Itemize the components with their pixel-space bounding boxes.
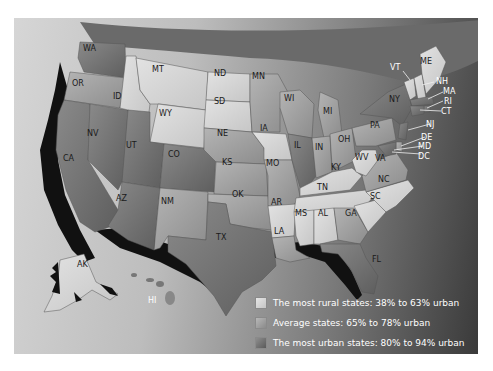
label-MA: MA xyxy=(443,87,456,96)
label-NE: NE xyxy=(217,129,228,138)
label-IN: IN xyxy=(315,143,323,152)
label-WI: WI xyxy=(284,94,294,103)
label-LA: LA xyxy=(274,227,285,236)
state-OH[interactable] xyxy=(330,128,356,168)
label-UT: UT xyxy=(126,141,137,150)
map-legend: The most rural states: 38% to 63% urban … xyxy=(255,293,485,353)
label-MO: MO xyxy=(266,159,279,168)
label-ME: ME xyxy=(420,57,432,66)
label-MT: MT xyxy=(152,65,164,74)
label-WY: WY xyxy=(159,109,172,118)
label-NV: NV xyxy=(87,129,99,138)
label-SC: SC xyxy=(370,192,381,201)
legend-label-urban: The most urban states: 80% to 94% urban xyxy=(273,338,465,348)
label-NM: NM xyxy=(161,197,174,206)
state-CT[interactable] xyxy=(410,106,424,116)
label-NH: NH xyxy=(436,77,448,86)
label-ID: ID xyxy=(113,92,122,101)
legend-swatch-rural xyxy=(255,297,267,309)
label-WV: WV xyxy=(355,153,369,162)
label-OK: OK xyxy=(232,190,244,199)
label-TN: TN xyxy=(316,183,328,192)
label-IA: IA xyxy=(260,124,268,133)
label-NY: NY xyxy=(389,95,400,104)
legend-item-average: Average states: 65% to 78% urban xyxy=(255,313,485,333)
label-DE: DE xyxy=(421,133,432,142)
state-NJ[interactable] xyxy=(398,122,408,140)
label-FL: FL xyxy=(372,255,382,264)
state-DE[interactable] xyxy=(396,142,402,152)
label-SD: SD xyxy=(214,97,225,106)
label-AZ: AZ xyxy=(116,194,127,203)
label-OR: OR xyxy=(72,79,84,88)
label-KY: KY xyxy=(331,163,341,172)
legend-label-rural: The most rural states: 38% to 63% urban xyxy=(273,298,459,308)
label-CO: CO xyxy=(168,150,180,159)
label-ND: ND xyxy=(214,69,226,78)
label-VT: VT xyxy=(390,63,400,72)
label-NJ: NJ xyxy=(426,120,434,129)
label-VA: VA xyxy=(375,154,386,163)
label-NC: NC xyxy=(378,175,390,184)
legend-item-rural: The most rural states: 38% to 63% urban xyxy=(255,293,485,313)
label-MN: MN xyxy=(252,72,265,81)
label-PA: PA xyxy=(370,121,380,130)
label-MS: MS xyxy=(295,209,307,218)
legend-swatch-urban xyxy=(255,337,267,349)
label-RI: RI xyxy=(444,97,452,106)
label-TX: TX xyxy=(215,233,227,242)
label-MI: MI xyxy=(323,107,332,116)
label-CT: CT xyxy=(441,107,452,116)
legend-item-urban: The most urban states: 80% to 94% urban xyxy=(255,333,485,353)
legend-label-average: Average states: 65% to 78% urban xyxy=(273,318,430,328)
label-DC: DC xyxy=(418,152,430,161)
label-KS: KS xyxy=(222,158,232,167)
label-CA: CA xyxy=(63,154,75,163)
state-ND[interactable] xyxy=(206,72,250,102)
label-AL: AL xyxy=(318,209,328,218)
label-HI: HI xyxy=(148,296,156,305)
label-MD: MD xyxy=(418,142,431,151)
label-OH: OH xyxy=(338,135,350,144)
label-AR: AR xyxy=(271,198,282,207)
label-WA: WA xyxy=(83,44,96,53)
label-AK: AK xyxy=(77,260,88,269)
label-GA: GA xyxy=(345,209,357,218)
state-SD[interactable] xyxy=(204,100,252,132)
legend-swatch-average xyxy=(255,317,267,329)
label-IL: IL xyxy=(294,141,301,150)
